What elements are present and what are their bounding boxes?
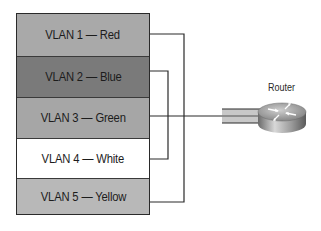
router-icon — [258, 103, 306, 133]
connection-wires — [0, 0, 321, 231]
inner-loop-wire — [150, 71, 168, 159]
router-label: Router — [268, 82, 295, 93]
router-cable — [222, 109, 262, 123]
outer-loop-wire — [150, 34, 184, 202]
